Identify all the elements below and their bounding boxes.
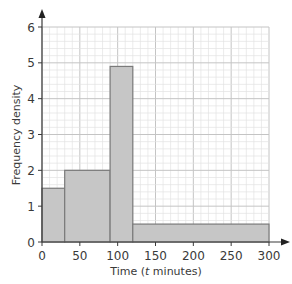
x-tick-label: 300 xyxy=(258,249,281,263)
x-axis-title: Time (t minutes) xyxy=(109,265,201,278)
histogram-chart: 050100150200250300 0123456 Time (t minut… xyxy=(0,0,292,284)
histogram-bar xyxy=(65,170,110,242)
y-tick-label: 2 xyxy=(27,164,35,178)
y-tick-labels: 0123456 xyxy=(27,21,42,250)
x-tick-label: 100 xyxy=(106,249,129,263)
x-tick-label: 50 xyxy=(72,249,87,263)
x-tick-label: 150 xyxy=(144,249,167,263)
x-tick-label: 0 xyxy=(38,249,46,263)
histogram-bar xyxy=(133,224,269,242)
y-tick-label: 5 xyxy=(27,56,35,70)
y-tick-label: 1 xyxy=(27,200,35,214)
histogram-bar xyxy=(110,66,133,242)
x-tick-label: 200 xyxy=(182,249,205,263)
x-tick-label: 250 xyxy=(220,249,243,263)
x-axis-arrow-icon xyxy=(281,239,290,246)
y-tick-label: 3 xyxy=(27,128,35,142)
x-tick-labels: 050100150200250300 xyxy=(38,242,280,263)
y-tick-label: 0 xyxy=(27,236,35,250)
y-tick-label: 4 xyxy=(27,92,35,106)
y-tick-label: 6 xyxy=(27,21,35,35)
y-axis-title: Frequency density xyxy=(10,84,23,185)
y-axis-arrow-icon xyxy=(39,9,46,18)
histogram-bar xyxy=(42,188,65,242)
